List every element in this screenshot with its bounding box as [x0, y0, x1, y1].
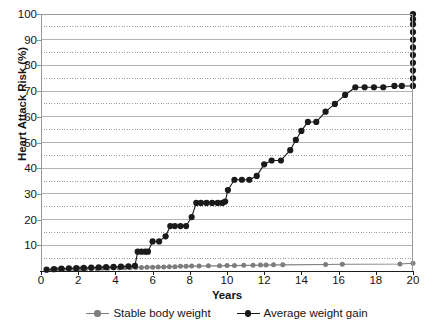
series-layer — [41, 14, 413, 271]
x-axis-tick-label: 14 — [289, 273, 313, 288]
y-tickmark — [37, 245, 41, 246]
y-tickmark — [37, 14, 41, 15]
x-axis-tick-label: 12 — [252, 273, 276, 288]
y-tickmark — [37, 168, 41, 169]
major-gridlines — [41, 14, 413, 245]
legend-dot — [245, 310, 251, 316]
y-tickmark — [37, 194, 41, 195]
legend-item-average-weight-gain[interactable]: Average weight gain — [237, 307, 368, 320]
y-axis-tick-label: 20 — [5, 213, 37, 227]
y-axis-tick-label: 50 — [5, 136, 37, 150]
y-tickmark — [37, 220, 41, 221]
y-axis-tick-label: 80 — [5, 58, 37, 72]
legend-item-stable-body-weight[interactable]: Stable body weight — [86, 307, 210, 320]
chart-figure: Heart Attack Risk (%) 102030405060708090… — [0, 0, 434, 323]
x-axis-title: Years — [41, 288, 413, 303]
chart-legend: Stable body weight Average weight gain — [41, 305, 413, 322]
series-average-weight-gain — [43, 11, 416, 273]
y-axis-tick-label: 30 — [5, 187, 37, 201]
y-tickmark — [37, 91, 41, 92]
legend-marker-line-dot-icon — [237, 308, 260, 319]
legend-dot — [94, 310, 100, 316]
x-axis-tick-label: 2 — [66, 273, 90, 288]
y-axis-tick-label: 70 — [5, 84, 37, 98]
y-axis-tick-label: 60 — [5, 110, 37, 124]
y-axis-tick-label: 90 — [5, 33, 37, 47]
x-axis-tick-labels: 02468101214161820 — [0, 273, 434, 289]
x-axis-tick-label: 16 — [327, 273, 351, 288]
y-tickmark — [37, 143, 41, 144]
x-axis-tick-label: 20 — [401, 273, 425, 288]
x-axis-tick-label: 10 — [215, 273, 239, 288]
x-axis-tick-label: 18 — [364, 273, 388, 288]
x-axis-tick-label: 4 — [103, 273, 127, 288]
y-axis-tick-label: 10 — [5, 238, 37, 252]
y-axis-tick-label: 100 — [5, 7, 37, 21]
x-axis-tick-label: 8 — [178, 273, 202, 288]
y-tickmark — [37, 117, 41, 118]
x-axis-tick-label: 6 — [141, 273, 165, 288]
y-tickmark — [37, 40, 41, 41]
legend-marker-line-dot-icon — [86, 308, 109, 319]
plot-area — [41, 14, 413, 271]
legend-label: Average weight gain — [264, 307, 368, 320]
y-tickmark — [37, 65, 41, 66]
x-axis-tick-label: 0 — [29, 273, 53, 288]
legend-label: Stable body weight — [113, 307, 210, 320]
y-axis-tick-label: 40 — [5, 161, 37, 175]
